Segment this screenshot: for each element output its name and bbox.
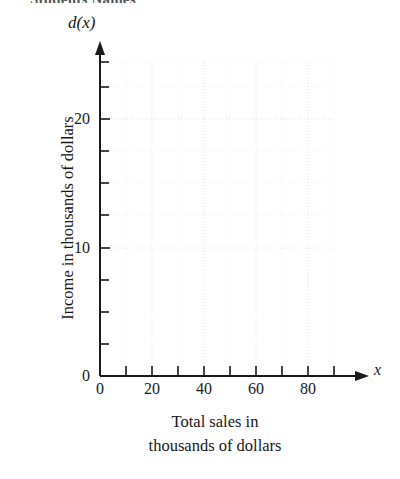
y-axis-ticks: [100, 62, 110, 344]
x-axis-arrowhead: [355, 371, 369, 381]
x-tick-label-0: 0: [85, 380, 115, 398]
coordinate-plot-figure: d(x) x 0 10 20 0 20 40 60 80 Income in t…: [0, 0, 400, 479]
x-tick-label-60: 60: [241, 380, 271, 398]
y-axis: [95, 41, 105, 376]
x-axis-caption-line-1: Total sales in: [95, 410, 335, 434]
x-tick-label-80: 80: [293, 380, 323, 398]
x-axis-symbol-label: x: [374, 361, 381, 379]
x-axis-caption-line-2: thousands of dollars: [95, 434, 335, 458]
x-axis-ticks: [126, 366, 334, 376]
y-axis-arrowhead: [95, 41, 105, 55]
grid-lines: [100, 62, 334, 376]
x-tick-label-20: 20: [137, 380, 167, 398]
y-axis-caption: Income in thousands of dollars: [58, 53, 78, 383]
x-tick-label-40: 40: [189, 380, 219, 398]
x-axis-caption: Total sales in thousands of dollars: [95, 410, 335, 458]
y-axis-symbol-label: d(x): [68, 13, 95, 33]
grid-lines-major: [100, 62, 334, 376]
